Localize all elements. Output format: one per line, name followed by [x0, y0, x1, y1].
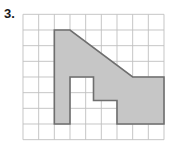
grid-figure-svg [22, 13, 165, 141]
problem-number-label: 3. [4, 7, 15, 21]
shaded-polygon [54, 30, 164, 124]
problem-figure-panel: 3. [0, 0, 190, 152]
grid-figure [22, 13, 166, 143]
